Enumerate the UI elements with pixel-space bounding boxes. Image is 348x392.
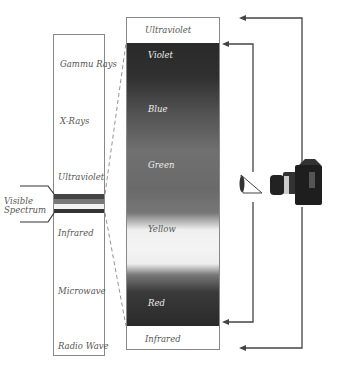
arrow-head-camera-top	[239, 15, 246, 21]
arrow-head-eye-bottom	[222, 319, 229, 325]
camera-icon	[270, 159, 322, 205]
diagram-lines	[0, 0, 348, 392]
arrow-head-eye-top	[222, 41, 229, 47]
eye-icon	[240, 175, 263, 193]
visible-bracket	[20, 186, 54, 222]
zoom-dashed-lines	[105, 43, 126, 326]
arrow-head-camera-bottom	[239, 345, 246, 351]
